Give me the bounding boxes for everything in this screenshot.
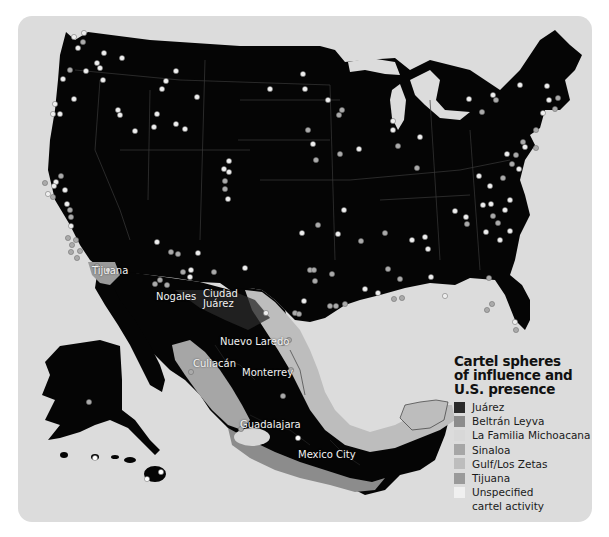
legend-title-line: of influence and [454,368,604,382]
legend-label: Beltrán Leyva [472,415,544,427]
legend-item-tijuana: Tijuana [454,471,604,485]
legend-label: cartel activity [472,500,544,512]
legend-swatch-spacer [454,501,465,512]
legend-title-line: U.S. presence [454,382,604,396]
city-label-guadalajara: Guadalajara [240,419,301,430]
city-label-nogales: Nogales [156,291,196,302]
legend-label: La Familia Michoacana [472,429,590,441]
legend-item-beltran-leyva: Beltrán Leyva [454,414,604,428]
legend-swatch [454,458,465,469]
legend-item-unspecified: Unspecified [454,485,604,499]
city-label-culiacan: Culiacán [193,358,236,369]
hawaii [60,452,166,482]
city-label-nuevo-laredo: Nuevo Laredo [220,336,289,347]
legend-item-unspecified-cont: cartel activity [454,499,604,513]
legend-label: Gulf/Los Zetas [472,458,548,470]
city-label-monterrey: Monterrey [242,367,293,378]
legend-swatch [454,487,465,498]
legend-label: Juárez [472,401,504,413]
legend-label: Tijuana [472,472,510,484]
legend-item-gulf-los-zetas: Gulf/Los Zetas [454,457,604,471]
map-legend: Cartel spheres of influence and U.S. pre… [454,354,604,514]
legend-item-sinaloa: Sinaloa [454,443,604,457]
legend-title: Cartel spheres of influence and U.S. pre… [454,354,604,396]
legend-title-line: Cartel spheres [454,354,604,368]
legend-item-juarez: Juárez [454,400,604,414]
legend-swatch [454,444,465,455]
legend-swatch [454,416,465,427]
legend-swatch [454,402,465,413]
city-label-juarez: Juárez [203,298,234,309]
legend-item-la-familia: La Familia Michoacana [454,428,604,442]
city-label-tijuana: Tijuana [92,265,128,276]
legend-swatch [454,473,465,484]
city-label-mexico-city: Mexico City [298,449,356,460]
legend-swatch [454,430,465,441]
legend-label: Unspecified [472,486,533,498]
legend-label: Sinaloa [472,444,510,456]
